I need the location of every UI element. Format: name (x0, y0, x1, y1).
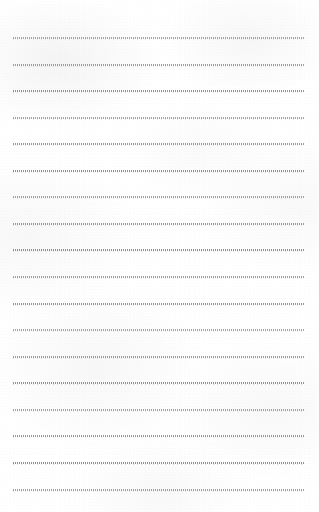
rule-line (13, 143, 305, 145)
rule-line (13, 117, 305, 119)
lined-paper-page (0, 0, 319, 512)
rule-line (13, 489, 305, 491)
rule-line (13, 303, 305, 305)
rule-line (13, 90, 305, 92)
rule-line (13, 382, 305, 384)
rule-line (13, 223, 305, 225)
rule-line (13, 435, 305, 437)
rule-line (13, 356, 305, 358)
rule-line (13, 409, 305, 411)
rule-line (13, 329, 305, 331)
rule-line (13, 37, 305, 39)
rule-line (13, 170, 305, 172)
rule-line (13, 276, 305, 278)
rule-line (13, 462, 305, 464)
rule-line (13, 249, 305, 251)
rule-line (13, 64, 305, 66)
rule-line-group (0, 0, 319, 512)
rule-line (13, 196, 305, 198)
